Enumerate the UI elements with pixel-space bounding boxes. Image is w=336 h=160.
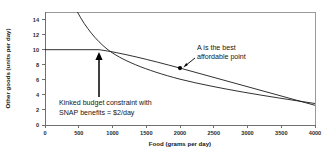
x-tick-label: 3500	[275, 130, 287, 136]
budget-constraint-annotation: Kinked budget constraint with SNAP benef…	[59, 52, 152, 117]
point-a-annotation-line1: A is the best	[197, 44, 236, 52]
x-tick-label: 500	[74, 130, 83, 136]
budget-annotation-line1: Kinked budget constraint with	[59, 99, 152, 107]
y-tick-label: 2	[36, 107, 39, 113]
x-tick-label: 4000	[309, 130, 321, 136]
y-tick-label: 8	[36, 62, 39, 68]
x-tick-label: 2500	[208, 130, 220, 136]
x-tick-label: 0	[43, 130, 46, 136]
x-tick-label: 2000	[174, 130, 186, 136]
y-axis-tick-labels: 0 2 4 6 8 10 12 14	[33, 17, 40, 129]
x-tick-label: 1500	[140, 130, 152, 136]
y-tick-label: 0	[36, 122, 39, 128]
point-a-annotation: A is the best affordable point	[183, 44, 246, 68]
x-axis-tick-labels: 0 500 1000 1500 2000 2500 3000 3500 4000	[43, 130, 321, 136]
x-axis-title: Food (grams per day)	[149, 140, 211, 147]
y-tick-label: 10	[33, 47, 39, 53]
budget-annotation-arrow-head	[95, 52, 102, 60]
y-axis-title: Other goods (units per day)	[4, 29, 11, 109]
y-tick-label: 4	[36, 92, 40, 98]
y-tick-label: 12	[33, 32, 39, 38]
chart-container: 0 2 4 6 8 10 12 14 0 500 1000 1500 2000	[0, 0, 336, 160]
y-tick-label: 6	[36, 77, 39, 83]
point-a-annotation-line2: affordable point	[197, 53, 246, 61]
economics-budget-constraint-chart: 0 2 4 6 8 10 12 14 0 500 1000 1500 2000	[0, 0, 336, 160]
point-a-marker	[178, 66, 182, 70]
x-tick-label: 3000	[241, 130, 253, 136]
x-tick-label: 1000	[106, 130, 118, 136]
y-tick-label: 14	[33, 17, 40, 23]
budget-annotation-line2: SNAP benefits = $2/day	[59, 109, 135, 117]
